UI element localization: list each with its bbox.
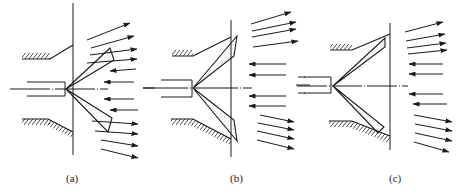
panel-label-c: (c): [389, 172, 401, 184]
spray-sheet-upper: [193, 36, 237, 88]
panel-label-b: (b): [230, 172, 243, 184]
panel-a: [10, 3, 155, 158]
panel-label-a: (a): [66, 172, 78, 184]
panel-b: [143, 12, 310, 157]
flow-arrows-c: [405, 22, 452, 152]
diagram-canvas: [0, 0, 459, 196]
flow-arrows-a: [87, 23, 138, 158]
flow-arrows-b: [249, 12, 298, 149]
panel-c: [297, 22, 452, 152]
